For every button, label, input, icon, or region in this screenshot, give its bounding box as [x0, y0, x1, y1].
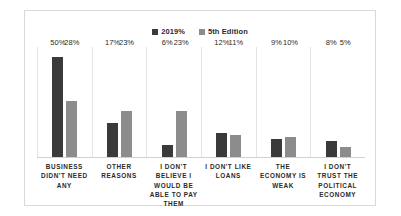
- bar-wrap: 23%: [176, 47, 187, 157]
- bar-value-label: 9%: [271, 39, 282, 47]
- bar-value-label: 10%: [283, 39, 298, 47]
- category-label: BUSINESS DIDN'T NEED ANY: [37, 162, 92, 208]
- bar-group: 17% 23%: [92, 47, 147, 157]
- bar-value-label: 50%: [50, 39, 65, 47]
- bar-series-2019[interactable]: [107, 123, 118, 157]
- category-label: I DON'T TRUST THE POLITICAL ECONOMY: [310, 162, 365, 208]
- bar-series-5th-edition[interactable]: [285, 137, 296, 157]
- category-label: THE ECONOMY IS WEAK: [256, 162, 311, 208]
- legend-swatch-5th-edition: [199, 29, 205, 35]
- bar-group: 9% 10%: [256, 47, 311, 157]
- bar-wrap: 17%: [107, 47, 118, 157]
- bar-wrap: 50%: [52, 47, 63, 157]
- bar-value-label: 28%: [64, 39, 79, 47]
- legend-label-2019: 2019%: [161, 27, 185, 36]
- bar-value-label: 17%: [105, 39, 120, 47]
- bar-series-5th-edition[interactable]: [230, 135, 241, 157]
- legend-swatch-2019: [152, 29, 158, 35]
- bar-wrap: 11%: [230, 47, 241, 157]
- bar-wrap: 6%: [162, 47, 173, 157]
- bar-wrap: 28%: [66, 47, 77, 157]
- bar-series-2019[interactable]: [271, 139, 282, 157]
- plot-area: 50% 28% 17% 23% 6% 23%: [37, 47, 365, 157]
- category-label: I DON'T LIKE LOANS: [201, 162, 256, 208]
- bar-value-label: 12%: [214, 39, 229, 47]
- bar-value-label: 23%: [119, 39, 134, 47]
- bar-series-5th-edition[interactable]: [66, 101, 77, 157]
- chart-card: 2019% 5th Edition 50% 28% 17% 23%: [24, 10, 376, 206]
- bar-group: 50% 28%: [37, 47, 92, 157]
- bar-value-label: 5%: [340, 39, 351, 47]
- legend-label-5th-edition: 5th Edition: [208, 27, 248, 36]
- bar-series-2019[interactable]: [216, 133, 227, 157]
- bar-wrap: 23%: [121, 47, 132, 157]
- bar-series-5th-edition[interactable]: [176, 111, 187, 157]
- category-label: I DON'T BELIEVE I WOULD BE ABLE TO PAY T…: [146, 162, 201, 208]
- bar-series-2019[interactable]: [52, 57, 63, 157]
- bar-series-2019[interactable]: [162, 145, 173, 157]
- chart-legend: 2019% 5th Edition: [25, 27, 375, 36]
- bar-group: 6% 23%: [146, 47, 201, 157]
- axis-baseline: [37, 157, 365, 158]
- bar-group: 8% 5%: [310, 47, 365, 157]
- bar-wrap: 10%: [285, 47, 296, 157]
- category-axis: BUSINESS DIDN'T NEED ANY OTHER REASONS I…: [37, 162, 365, 208]
- bar-value-label: 8%: [326, 39, 337, 47]
- bar-value-label: 6%: [162, 39, 173, 47]
- category-label: OTHER REASONS: [92, 162, 147, 208]
- bar-series-2019[interactable]: [326, 141, 337, 157]
- bar-wrap: 5%: [340, 47, 351, 157]
- legend-item-5th-edition[interactable]: 5th Edition: [199, 27, 248, 36]
- bar-group: 12% 11%: [201, 47, 256, 157]
- bar-value-label: 11%: [229, 39, 243, 47]
- bar-series-5th-edition[interactable]: [121, 111, 132, 157]
- bar-value-label: 23%: [174, 39, 189, 47]
- bar-series-5th-edition[interactable]: [340, 147, 351, 157]
- bar-wrap: 9%: [271, 47, 282, 157]
- bar-wrap: 8%: [326, 47, 337, 157]
- bar-wrap: 12%: [216, 47, 227, 157]
- legend-item-2019[interactable]: 2019%: [152, 27, 185, 36]
